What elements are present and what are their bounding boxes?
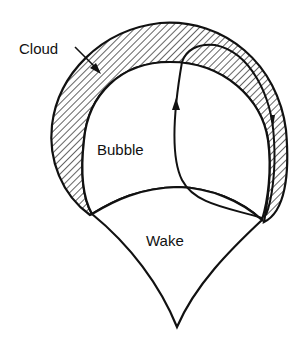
- wake-label: Wake: [146, 233, 184, 248]
- cloud-label: Cloud: [19, 41, 58, 56]
- wake-region: [92, 187, 262, 327]
- bubble-label: Bubble: [97, 142, 144, 157]
